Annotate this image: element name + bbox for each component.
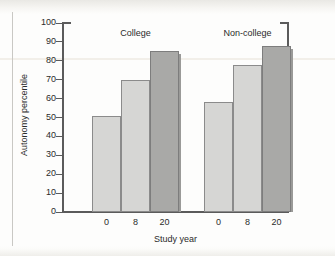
y-axis-title: Autonomy percentile [19,55,29,175]
group-label: College [91,28,181,38]
y-axis-tick-label: 10 [22,188,56,197]
y-axis-tick-value: 10 [28,188,56,197]
x-axis-tick-label: 0 [93,217,121,227]
y-axis-tick-label: 0 [22,207,56,216]
y-axis-tick [56,193,62,194]
y-axis-tick-value: 80 [28,56,56,65]
y-axis-tick-value: 20 [28,169,56,178]
bar [204,102,233,212]
x-axis-title: Study year [62,234,289,244]
y-axis-tick-value: 100 [28,18,56,27]
y-axis-tick [56,212,62,213]
y-axis-tick-value: 0 [28,207,56,216]
y-axis-tick-value: 30 [28,150,56,159]
x-axis-tick-label: 20 [263,217,291,227]
y-axis-tick-value: 90 [28,37,56,46]
y-axis-tick [56,60,62,61]
bar [92,116,121,212]
x-axis-tick-label: 0 [205,217,233,227]
y-axis-tick [56,79,62,80]
y-axis-tick [56,98,62,99]
x-axis-tick-label: 8 [122,217,150,227]
plot-frame-top-right [280,22,289,24]
y-axis-tick [56,174,62,175]
bar [121,80,150,212]
x-axis-tick-label: 20 [151,217,179,227]
y-axis-tick-value: 60 [28,94,56,103]
x-axis-tick-label: 8 [234,217,262,227]
y-axis-tick [56,155,62,156]
y-axis-tick [56,23,62,24]
plot-frame-top-left [62,22,71,24]
y-axis-tick [56,136,62,137]
bar [150,51,179,212]
y-axis-tick [56,117,62,118]
y-axis-line [62,22,64,213]
y-axis-tick [56,41,62,42]
y-axis-tick-value: 40 [28,131,56,140]
bar-chart: 1009080706050403020100 Autonomy percenti… [0,0,335,256]
bar [262,46,291,212]
bar [233,65,262,212]
y-axis-tick-value: 70 [28,75,56,84]
y-axis-tick-label: 90 [22,37,56,46]
y-axis-tick-label: 100 [22,18,56,27]
y-axis-tick-value: 50 [28,113,56,122]
group-label: Non-college [203,28,293,38]
